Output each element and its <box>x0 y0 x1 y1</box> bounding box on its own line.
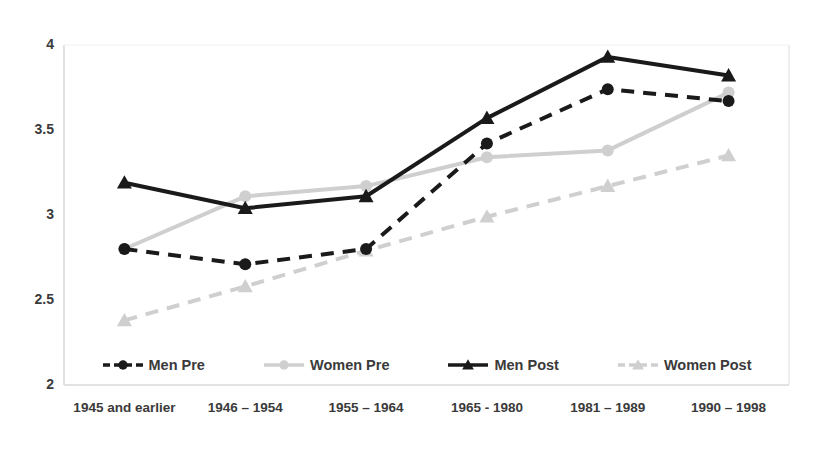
series-women-post <box>117 148 736 326</box>
x-category-label: 1981 – 1989 <box>570 400 645 415</box>
data-point-marker <box>602 83 614 95</box>
data-point-marker <box>238 279 253 292</box>
data-point-marker <box>118 243 130 255</box>
y-tick-label: 3 <box>8 206 54 222</box>
data-point-marker <box>360 243 372 255</box>
data-point-marker <box>279 360 288 369</box>
data-point-marker <box>721 148 736 161</box>
series-women-pre <box>118 87 734 255</box>
plot-canvas <box>0 0 817 452</box>
legend-label-women-post: Women Post <box>664 357 752 373</box>
data-point-marker <box>239 258 251 270</box>
chart-legend: Men Pre Women Pre Men Post Women Post <box>64 352 789 378</box>
legend-swatch-women-pre <box>263 357 305 373</box>
series-line <box>124 156 728 321</box>
line-chart: 22.533.54 1945 and earlier1946 – 1954195… <box>0 0 817 452</box>
legend-swatch-men-pre <box>102 357 144 373</box>
data-point-marker <box>723 95 735 107</box>
series-line <box>124 93 728 249</box>
series-line <box>124 57 728 208</box>
legend-label-men-pre: Men Pre <box>149 357 205 373</box>
legend-label-men-post: Men Post <box>494 357 558 373</box>
legend-label-women-pre: Women Pre <box>310 357 390 373</box>
y-tick-label: 2.5 <box>8 291 54 307</box>
legend-item-1[interactable]: Women Pre <box>263 357 390 373</box>
x-category-label: 1945 and earlier <box>73 400 175 415</box>
data-point-marker <box>481 151 493 163</box>
y-tick-label: 2 <box>8 376 54 392</box>
data-point-marker <box>239 190 251 202</box>
data-point-marker <box>481 138 493 150</box>
x-category-label: 1946 – 1954 <box>208 400 283 415</box>
x-category-label: 1955 – 1964 <box>329 400 404 415</box>
legend-item-3[interactable]: Women Post <box>617 357 752 373</box>
y-tick-label: 4 <box>8 36 54 52</box>
legend-swatch-women-post <box>617 357 659 373</box>
x-category-label: 1965 - 1980 <box>451 400 523 415</box>
data-point-marker <box>118 360 127 369</box>
legend-swatch-men-post <box>447 357 489 373</box>
axis-lines <box>64 45 789 385</box>
y-tick-label: 3.5 <box>8 121 54 137</box>
x-category-label: 1990 – 1998 <box>691 400 766 415</box>
data-point-marker <box>602 144 614 156</box>
series-layer <box>117 49 736 326</box>
legend-item-2[interactable]: Men Post <box>447 357 558 373</box>
legend-item-0[interactable]: Men Pre <box>102 357 205 373</box>
